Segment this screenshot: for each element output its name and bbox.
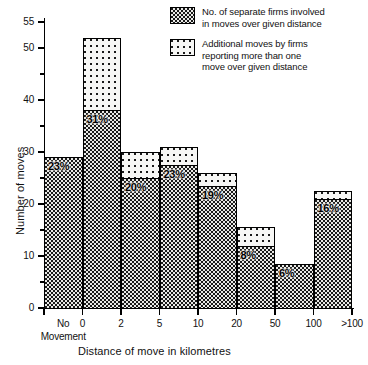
- y-axis-line: [44, 18, 45, 309]
- dense-dotted-swatch-icon: [170, 7, 195, 24]
- bar-segment-separate-firms: [83, 110, 122, 309]
- x-tick-label: 5: [138, 318, 182, 329]
- x-tick-label: 20: [215, 318, 259, 329]
- y-tick-label: 40: [4, 94, 34, 105]
- bar-6: [237, 227, 276, 308]
- bar-segment-additional-moves: [237, 227, 276, 247]
- bar-percentage-label: 6%: [279, 267, 294, 279]
- bar-segment-separate-firms: [121, 178, 160, 309]
- legend-entry-label: Additional moves by firms reporting more…: [202, 38, 308, 73]
- legend-entry-label: No. of separate firms involved in moves …: [202, 6, 325, 29]
- legend-line-3: move over given distance: [202, 61, 308, 73]
- x-tick-label-no-movement-line1: No: [41, 318, 85, 329]
- chart-legend: No. of separate firms involved in moves …: [170, 6, 360, 82]
- bar-segment-additional-moves: [121, 152, 160, 179]
- legend-line-2: in moves over given distance: [202, 18, 325, 30]
- y-tick-label: 55: [4, 16, 34, 27]
- bar-segment-additional-moves: [83, 38, 122, 112]
- legend-line-1: Additional moves by firms: [202, 38, 308, 50]
- x-axis-line: [38, 308, 354, 309]
- bar-segment-additional-moves: [160, 147, 199, 167]
- sparse-dotted-swatch-icon: [170, 39, 195, 56]
- bar-percentage-label: 23%: [164, 168, 185, 180]
- x-tick-label: 10: [176, 318, 220, 329]
- bar-segment-separate-firms: [198, 186, 237, 310]
- y-axis-title: Number of moves: [14, 147, 26, 235]
- bar-percentage-label: 23%: [48, 160, 69, 172]
- x-tick-label: >100: [330, 318, 368, 329]
- bar-percentage-label: 31%: [87, 113, 108, 125]
- x-axis-title: Distance of move in kilometres: [78, 345, 231, 357]
- y-tick-label: 10: [4, 250, 34, 261]
- bar-percentage-label: 19%: [202, 189, 223, 201]
- legend-entry-separate-firms: No. of separate firms involved in moves …: [170, 6, 360, 29]
- y-tick-label: 50: [4, 42, 34, 53]
- bar-segment-separate-firms: [160, 165, 199, 309]
- legend-line-1: No. of separate firms involved: [202, 6, 325, 18]
- x-tick-label: 100: [292, 318, 336, 329]
- x-tick-label: 2: [99, 318, 143, 329]
- y-tick-label: 0: [4, 302, 34, 313]
- bar-percentage-label: 20%: [125, 181, 146, 193]
- bar-segment-separate-firms: [44, 157, 83, 309]
- legend-entry-additional-moves: Additional moves by firms reporting more…: [170, 38, 360, 73]
- bar-percentage-label: 8%: [241, 249, 256, 261]
- bar-segment-separate-firms: [314, 199, 353, 310]
- bar-2: [83, 38, 122, 308]
- x-tick-label: 50: [253, 318, 297, 329]
- bar-3: [121, 152, 160, 308]
- bar-percentage-label: 16%: [318, 202, 339, 214]
- bar-1: [44, 157, 83, 308]
- legend-line-2: reporting more than one: [202, 50, 308, 62]
- x-tick-label-no-movement-line2: Movement: [33, 331, 93, 342]
